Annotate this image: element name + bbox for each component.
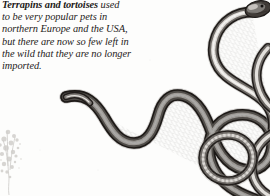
caption-line-3: northern Europe and the USA, <box>2 23 148 35</box>
caption-lead: Terrapins and tortoises <box>2 0 98 10</box>
caption-line-2: to be very popular pets in <box>2 11 148 23</box>
caption-line-6: imported. <box>2 60 148 72</box>
caption-text: Terrapins and tortoises used to be very … <box>2 0 148 72</box>
caption-line-5: the wild that they are no longer <box>2 48 148 60</box>
caption-line-1: used <box>98 0 119 10</box>
foliage-sketch <box>0 126 40 196</box>
caption-line-4: but there are now so few left in <box>2 36 148 48</box>
page-canvas: Terrapins and tortoises used to be very … <box>0 0 270 196</box>
